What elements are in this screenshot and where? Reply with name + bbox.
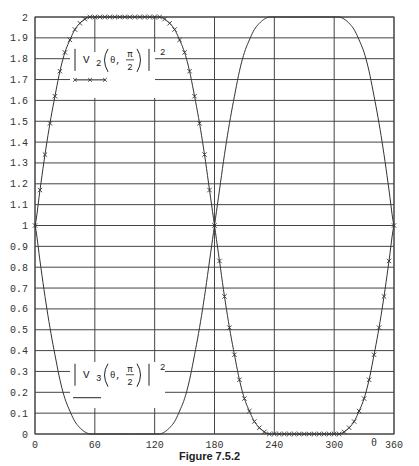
x-marker-icon <box>252 419 256 423</box>
x-marker-icon <box>162 17 166 21</box>
label-frac-num: π <box>127 50 133 60</box>
label-v: V <box>83 54 90 66</box>
x-marker-icon <box>73 27 77 31</box>
x-marker-icon <box>257 426 261 430</box>
x-axis-label: θ <box>371 438 377 449</box>
y-tick-label: 0.5 <box>10 325 28 336</box>
y-tick-label: 0.8 <box>10 263 28 274</box>
x-marker-icon <box>78 21 82 25</box>
y-tick-label: 0.9 <box>10 242 28 253</box>
x-tick-label: 360 <box>385 440 403 450</box>
x-marker-icon <box>167 21 171 25</box>
x-marker-icon <box>347 426 351 430</box>
x-tick-label: 120 <box>146 440 164 450</box>
x-marker-icon <box>247 409 251 413</box>
x-tick-label: 0 <box>32 440 38 450</box>
y-tick-label: 1.2 <box>10 179 28 190</box>
x-marker-icon <box>352 419 356 423</box>
y-tick-label: 1.6 <box>10 96 28 107</box>
x-marker-icon <box>83 17 87 21</box>
paren-left <box>105 49 109 72</box>
y-axis-tick-labels: 00.10.20.30.40.50.60.70.80.911.11.21.31.… <box>10 13 28 441</box>
chart-svg: 00.10.20.30.40.50.60.70.80.911.11.21.31.… <box>0 0 419 450</box>
x-marker-icon <box>172 27 176 31</box>
label-frac-den: 2 <box>127 63 132 73</box>
y-tick-label: 0 <box>22 430 28 441</box>
x-tick-label: 60 <box>89 440 101 450</box>
paren-left <box>105 364 109 387</box>
label-subscript: 2 <box>96 59 101 69</box>
label-v: V <box>83 369 90 381</box>
x-tick-label: 300 <box>325 440 343 450</box>
y-tick-label: 1.9 <box>10 33 28 44</box>
curve-label-1: V2θ,π22 <box>73 48 165 82</box>
label-subscript: 3 <box>96 374 101 384</box>
y-tick-label: 0.2 <box>10 388 28 399</box>
y-tick-label: 0.6 <box>10 304 28 315</box>
y-tick-label: 0.7 <box>10 284 28 295</box>
label-frac-den: 2 <box>127 378 132 388</box>
curve-label-2: V3θ,π22 <box>73 363 165 398</box>
x-marker-icon <box>177 38 181 42</box>
paren-right <box>137 364 141 387</box>
x-marker-icon <box>342 430 346 434</box>
x-marker-icon <box>357 409 361 413</box>
y-tick-label: 0.4 <box>10 346 28 357</box>
y-tick-label: 1.1 <box>10 200 28 211</box>
label-power: 2 <box>160 48 165 58</box>
label-arg: θ, <box>110 371 121 381</box>
paren-right <box>137 49 141 72</box>
x-tick-label: 240 <box>265 440 283 450</box>
x-marker-icon <box>262 430 266 434</box>
y-tick-label: 1.7 <box>10 75 28 86</box>
y-tick-label: 1.4 <box>10 138 28 149</box>
y-tick-label: 2 <box>22 13 28 24</box>
y-tick-label: 1 <box>22 221 28 232</box>
y-tick-label: 1.8 <box>10 54 28 65</box>
x-axis-tick-labels: 060120180240300360 <box>32 440 403 450</box>
y-tick-label: 1.3 <box>10 158 28 169</box>
y-tick-label: 0.1 <box>10 409 28 420</box>
label-power: 2 <box>160 363 165 373</box>
x-marker-icon <box>68 38 72 42</box>
figure-caption: Figure 7.5.2 <box>0 450 419 462</box>
label-arg: θ, <box>110 56 121 66</box>
label-frac-num: π <box>127 365 133 375</box>
y-tick-label: 1.5 <box>10 117 28 128</box>
y-tick-label: 0.3 <box>10 367 28 378</box>
x-tick-label: 180 <box>205 440 223 450</box>
